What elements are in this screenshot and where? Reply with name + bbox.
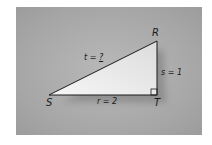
side-label-s: s = 1	[161, 69, 182, 77]
side-label-r: r = 2	[97, 98, 117, 106]
vertex-label-R: R	[152, 28, 159, 38]
vertex-label-S: S	[46, 98, 52, 108]
side-label-t: t = ?	[84, 54, 103, 62]
triangle-RST	[49, 41, 157, 95]
vertex-label-T: T	[154, 98, 160, 108]
